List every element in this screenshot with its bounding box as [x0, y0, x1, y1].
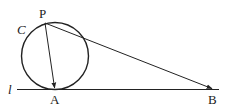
label-l: l [8, 82, 12, 97]
vector-pb-arrow [45, 23, 212, 89]
label-p: P [39, 6, 46, 21]
circle-c [22, 23, 89, 90]
geometry-diagram: P C l A B [0, 0, 231, 111]
label-b: B [208, 92, 217, 107]
label-c: C [17, 22, 26, 37]
label-a: A [50, 92, 60, 107]
vector-pa-arrow [45, 23, 55, 88]
